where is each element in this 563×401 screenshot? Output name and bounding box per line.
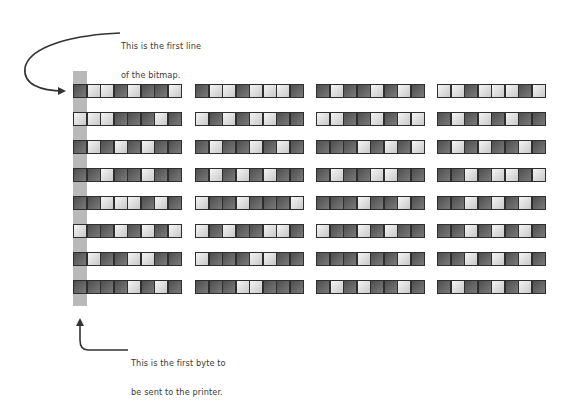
first-byte-annotation: This is the first byte to be sent to the… (131, 340, 226, 401)
first-byte-arrow-icon (80, 320, 128, 350)
first-byte-annotation-line2: be sent to the printer. (131, 388, 226, 398)
first-line-annotation: This is the first line of the bitmap. (121, 23, 201, 99)
first-line-annotation-line2: of the bitmap. (121, 71, 201, 81)
first-line-annotation-line1: This is the first line (121, 42, 201, 52)
first-byte-annotation-line1: This is the first byte to (131, 359, 226, 369)
first-line-arrow-icon (25, 33, 120, 91)
